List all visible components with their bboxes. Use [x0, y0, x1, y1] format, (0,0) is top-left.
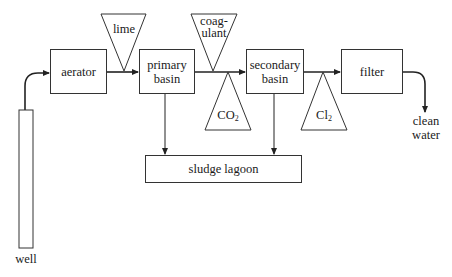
- aerator-label: aerator: [61, 65, 96, 79]
- well-label: well: [10, 252, 42, 266]
- secondary-basin-label-1: secondary: [250, 58, 301, 72]
- cl2-label: Cl2: [308, 108, 340, 126]
- filter-box: filter: [341, 49, 403, 94]
- secondary-basin-label-2: basin: [262, 72, 288, 86]
- primary-basin-label-2: basin: [154, 72, 180, 86]
- aerator-box: aerator: [50, 49, 107, 94]
- primary-basin-label-1: primary: [147, 58, 187, 72]
- coagulant-label-2: ulant: [194, 27, 234, 39]
- sludge-lagoon-box: sludge lagoon: [145, 155, 302, 183]
- secondary-basin-box: secondary basin: [246, 49, 304, 94]
- primary-basin-box: primary basin: [139, 49, 195, 94]
- coagulant-label: coag- ulant: [194, 15, 234, 39]
- well-shaft: [19, 110, 33, 248]
- flow-lines: [0, 0, 452, 277]
- co2-label: CO2: [212, 108, 244, 126]
- clean-water-label: clean water: [408, 114, 444, 142]
- sludge-lagoon-label: sludge lagoon: [189, 162, 259, 176]
- filter-label: filter: [360, 65, 384, 79]
- lime-label: lime: [108, 22, 140, 36]
